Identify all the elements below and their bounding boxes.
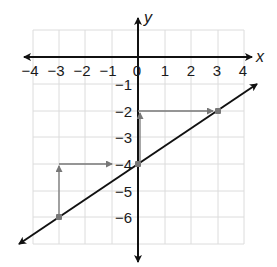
x-tick: −3 bbox=[47, 62, 64, 79]
x-tick: −4 bbox=[21, 62, 38, 79]
y-axis-label: y bbox=[143, 9, 153, 26]
y-tick: −2 bbox=[115, 103, 132, 120]
x-tick: 0 bbox=[133, 62, 141, 79]
x-tick-labels: −4 −3 −2 −1 0 1 2 3 4 bbox=[21, 62, 247, 79]
y-tick: −1 bbox=[115, 76, 132, 93]
x-tick: 3 bbox=[213, 62, 221, 79]
x-tick: −2 bbox=[73, 62, 90, 79]
point-0-neg4 bbox=[135, 161, 141, 167]
coordinate-plane: x y −4 −3 −2 −1 0 1 2 3 4 −1 −2 −3 −4 −5… bbox=[0, 0, 277, 267]
x-tick: 4 bbox=[239, 62, 247, 79]
y-tick: −6 bbox=[115, 209, 132, 226]
x-tick: 2 bbox=[187, 62, 195, 79]
point-neg3-neg6 bbox=[56, 214, 62, 220]
point-3-neg2 bbox=[215, 108, 221, 114]
x-tick: 1 bbox=[161, 62, 169, 79]
y-tick: −3 bbox=[115, 129, 132, 146]
y-tick: −5 bbox=[115, 183, 132, 200]
y-tick-labels: −1 −2 −3 −4 −5 −6 bbox=[115, 76, 132, 226]
x-axis-label: x bbox=[255, 48, 265, 65]
